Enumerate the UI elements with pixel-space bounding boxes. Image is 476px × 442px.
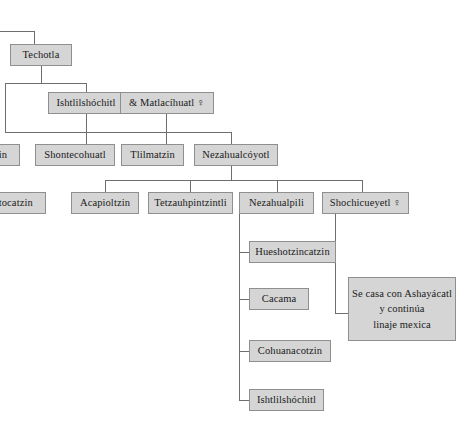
annotation-marriage-note[interactable]: Se casa con Ashayácatly continúalinaje m… xyxy=(348,277,456,341)
node-acapioltzin[interactable]: Acapioltzin xyxy=(71,192,139,214)
connector-ishtlilshochitl-up xyxy=(86,83,87,92)
annotation-line: y continúa xyxy=(349,301,455,316)
annotation-line: Se casa con Ashayácatl xyxy=(349,286,455,301)
node-ishtlilshochitl2[interactable]: Ishtlilshóchitl xyxy=(249,389,324,411)
node-nezahualpili[interactable]: Nezahualpili xyxy=(239,192,314,214)
connector-gen2-bus xyxy=(5,83,86,84)
node-tzin[interactable]: tzin xyxy=(0,144,20,166)
node-hueshotzincatzin[interactable]: Hueshotzincatzin xyxy=(249,241,336,263)
connector-gen2-bus-left-down xyxy=(5,83,6,132)
node-tetzauhpintzintli[interactable]: Tetzauhpintzintli xyxy=(148,192,233,214)
node-cohuanacotzin[interactable]: Cohuanacotzin xyxy=(249,340,331,362)
connector-matlacihuatl-down xyxy=(166,114,167,132)
connector-techotla-down xyxy=(41,66,42,83)
annotation-line: linaje mexica xyxy=(349,317,455,332)
connector-gen4-drop-tetzauhpintzintli xyxy=(190,180,191,192)
node-techotla[interactable]: Techotla xyxy=(10,44,72,66)
connector-nezahualcoyotl-down xyxy=(231,166,232,180)
node-ishtlilshochitl[interactable]: Ishtlilshóchitl xyxy=(48,92,124,114)
connector-gen3-drop-shontecohuatl xyxy=(86,132,87,144)
node-catocatzin[interactable]: catocatzin xyxy=(0,192,46,214)
node-shontecohuatl[interactable]: Shontecohuatl xyxy=(35,144,115,166)
node-nezahualcoyotl[interactable]: Nezahualcóyotl xyxy=(194,144,278,166)
connector-top-stub-v xyxy=(34,31,35,44)
connector-nezahualpili-spine xyxy=(239,214,240,400)
connector-shochicueyetl-to-annotation xyxy=(335,313,349,314)
family-tree-diagram: TechotlaIshtlilshóchitl& Matlacíhuatl ♀t… xyxy=(0,0,476,442)
connector-ishtlilshochitl-down xyxy=(86,114,87,132)
connector-gen4-bus xyxy=(105,180,362,181)
connector-gen3-drop-tlilmatzin xyxy=(166,132,167,144)
connector-top-stub-h xyxy=(0,31,34,32)
node-shochicueyetl[interactable]: Shochicueyetl ♀ xyxy=(322,192,409,214)
connector-shochicueyetl-spine xyxy=(335,214,336,314)
node-matlacihuatl[interactable]: & Matlacíhuatl ♀ xyxy=(120,92,214,114)
connector-gen3-bus xyxy=(5,132,232,133)
connector-gen4-drop-acapioltzin xyxy=(105,180,106,192)
connector-gen4-drop-shochicueyetl xyxy=(362,180,363,192)
node-tlilmatzin[interactable]: Tlilmatzin xyxy=(121,144,184,166)
connector-gen3-drop-nezahualcoyotl xyxy=(231,132,232,144)
node-cacama[interactable]: Cacama xyxy=(249,288,309,310)
connector-gen4-drop-nezahualpili xyxy=(277,180,278,192)
